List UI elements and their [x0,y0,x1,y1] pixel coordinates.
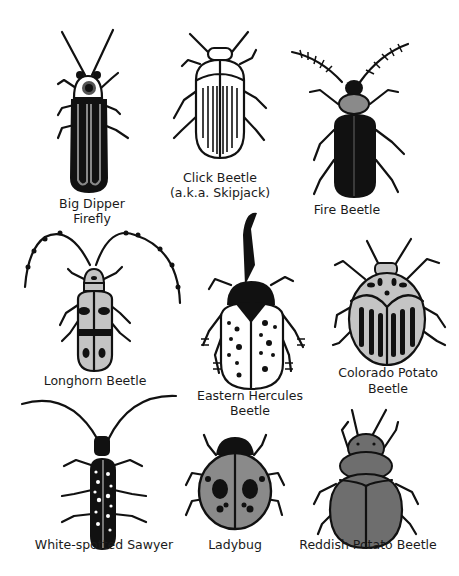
beetle-colorado-potato-beetle: Colorado Potato Beetle [315,235,459,410]
beetle-big-dipper-firefly: Big Dipper Firefly [0,0,160,220]
beetle-ladybug: Ladybug [180,425,290,565]
white-spotted-sawyer-illustration [20,390,190,560]
label-fire-beetle: Fire Beetle [314,202,380,218]
label-reddish-potato-beetle: Reddish Potato Beetle [299,537,436,553]
beetle-white-spotted-sawyer: White-spotted Sawyer [20,390,190,560]
label-colorado-potato-beetle-line1: Colorado Potato [338,365,438,381]
label-colorado-potato-beetle-line2: Beetle [368,381,408,397]
fire-beetle-illustration [280,30,459,220]
beetle-longhorn-beetle: Longhorn Beetle [0,225,200,395]
beetle-reddish-potato-beetle: Reddish Potato Beetle [300,400,459,565]
label-eastern-hercules-beetle-line2: Beetle [230,403,270,419]
label-white-spotted-sawyer: White-spotted Sawyer [35,537,173,553]
beetle-fire-beetle: Fire Beetle [280,30,459,220]
label-longhorn-beetle: Longhorn Beetle [44,373,147,389]
beetle-click-beetle: Click Beetle (a.k.a. Skipjack) [160,20,280,210]
label-ladybug: Ladybug [208,537,262,553]
big-dipper-firefly-illustration [0,0,160,220]
label-big-dipper-firefly-line1: Big Dipper [59,196,125,212]
label-eastern-hercules-beetle-line1: Eastern Hercules [197,388,303,404]
label-click-beetle-line1: Click Beetle [183,170,257,186]
label-click-beetle-line2: (a.k.a. Skipjack) [170,185,270,201]
longhorn-beetle-illustration [0,225,200,395]
beetle-eastern-hercules-beetle: Eastern Hercules Beetle [185,205,320,420]
